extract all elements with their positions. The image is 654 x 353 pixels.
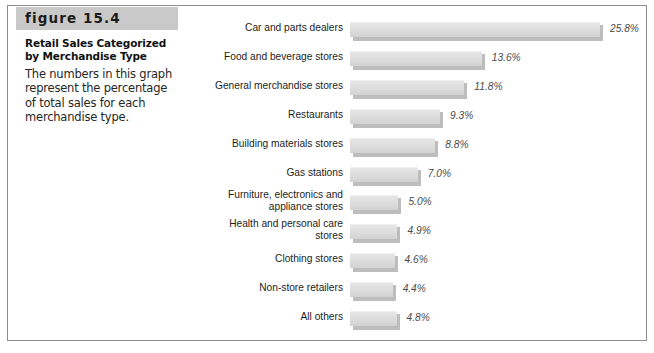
bar-value-label: 4.9% <box>407 225 430 236</box>
chart-row: Furniture, electronics andappliance stor… <box>184 193 648 219</box>
bar-shadow <box>482 54 485 70</box>
bar-value-label: 4.4% <box>403 283 426 294</box>
bar-category-label-line: stores <box>184 230 343 241</box>
chart-row: Health and personal carestores4.9% <box>184 222 648 248</box>
bar <box>350 195 401 214</box>
bar-value-label: 11.8% <box>474 81 502 92</box>
bar-category-label-line: Furniture, electronics and <box>184 189 343 200</box>
bar-shadow <box>353 268 398 272</box>
bar-shadow <box>418 170 421 186</box>
bar-shadow <box>353 239 400 243</box>
chart-row: All others4.8% <box>184 309 648 335</box>
bar <box>350 224 400 243</box>
bar-category-label: Building materials stores <box>184 138 343 150</box>
chart-row: Restaurants9.3% <box>184 107 648 133</box>
bar-shadow <box>397 227 400 243</box>
caption-column: figure 15.4 Retail Sales Categorized by … <box>16 6 184 342</box>
chart-row: Gas stations7.0% <box>184 165 648 191</box>
bar-shadow <box>393 285 396 301</box>
bar-category-label: Clothing stores <box>184 253 343 265</box>
bar-shadow <box>353 297 396 301</box>
figure-root: figure 15.4 Retail Sales Categorized by … <box>0 0 654 353</box>
bar-shadow <box>440 112 443 128</box>
bar-value-label: 13.6% <box>492 52 521 63</box>
figure-number-label: figure 15.4 <box>25 10 121 26</box>
bar-fill <box>350 109 440 124</box>
bar-value-label: 8.8% <box>445 139 468 150</box>
bar <box>350 22 603 41</box>
bar-value-label: 4.6% <box>405 254 428 265</box>
bar-shadow <box>353 210 401 214</box>
chart-row: General merchandise stores11.8% <box>184 78 648 104</box>
bar-shadow <box>353 326 400 330</box>
bar <box>350 138 438 157</box>
figure-frame: figure 15.4 Retail Sales Categorized by … <box>7 5 647 341</box>
bar-shadow <box>353 37 603 41</box>
figure-title: Retail Sales Categorized by Merchandise … <box>25 37 177 63</box>
bar <box>350 167 421 186</box>
bar <box>350 253 398 272</box>
bar-category-label: Furniture, electronics andappliance stor… <box>184 189 343 212</box>
chart-row: Food and beverage stores13.6% <box>184 49 648 75</box>
bar-value-label: 25.8% <box>610 23 639 34</box>
bar-shadow <box>353 95 467 99</box>
bar-fill <box>350 282 393 297</box>
chart-row: Building materials stores8.8% <box>184 136 648 162</box>
bar-category-label: Food and beverage stores <box>184 51 343 63</box>
bar-fill <box>350 311 397 326</box>
bar-shadow <box>395 256 398 272</box>
bar-shadow <box>398 198 401 214</box>
bar-shadow <box>353 153 438 157</box>
bar-shadow <box>353 124 443 128</box>
bar-category-label: All others <box>184 311 343 323</box>
bar-fill <box>350 22 600 37</box>
bar-category-label: Restaurants <box>184 109 343 121</box>
bar-category-label: Health and personal carestores <box>184 218 343 241</box>
bar-fill <box>350 80 464 95</box>
bar <box>350 109 443 128</box>
bar-shadow <box>397 314 400 330</box>
bar <box>350 51 485 70</box>
bar-shadow <box>353 182 421 186</box>
bar-fill <box>350 195 398 210</box>
bar-fill <box>350 224 397 239</box>
bar-category-label-line: appliance stores <box>184 201 343 212</box>
bar-value-label: 7.0% <box>428 168 451 179</box>
bar-category-label: Gas stations <box>184 167 343 179</box>
bar <box>350 80 467 99</box>
bar-value-label: 9.3% <box>450 110 473 121</box>
bar-category-label: General merchandise stores <box>184 80 343 92</box>
bar <box>350 282 396 301</box>
bar-fill <box>350 138 435 153</box>
bar <box>350 311 400 330</box>
bar-shadow <box>353 66 485 70</box>
bar-fill <box>350 51 482 66</box>
bar-shadow <box>464 83 467 99</box>
chart-row: Car and parts dealers25.8% <box>184 20 648 46</box>
bar-category-label: Car and parts dealers <box>184 22 343 34</box>
bar-category-label: Non-store retailers <box>184 282 343 294</box>
bar-category-label-line: Health and personal care <box>184 218 343 229</box>
bar-value-label: 4.8% <box>407 312 430 323</box>
chart-row: Clothing stores4.6% <box>184 251 648 277</box>
bar-shadow <box>600 25 603 41</box>
figure-description: The numbers in this graph represent the … <box>25 67 177 125</box>
bar-chart: Car and parts dealers25.8%Food and bever… <box>184 6 648 342</box>
bar-fill <box>350 167 418 182</box>
chart-row: Non-store retailers4.4% <box>184 280 648 306</box>
bar-value-label: 5.0% <box>408 196 431 207</box>
bar-shadow <box>435 141 438 157</box>
bar-fill <box>350 253 395 268</box>
